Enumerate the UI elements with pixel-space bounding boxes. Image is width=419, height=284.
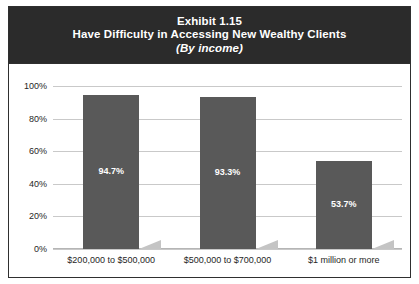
bar-shadow [139,240,161,249]
y-axis-tick-label: 0% [34,244,47,254]
plot-frame: 0%20%40%60%80%100%94.7%93.3%53.7% $200,0… [9,63,410,277]
chart-figure: Exhibit 1.15 Have Difficulty in Accessin… [0,0,419,284]
chart-subtitle: (By income) [176,42,243,56]
chart-card: Exhibit 1.15 Have Difficulty in Accessin… [8,6,411,278]
gridline: 100% [53,86,402,87]
exhibit-number: Exhibit 1.15 [177,15,242,29]
bar[interactable]: 53.7% [316,161,372,249]
y-axis-tick-label: 100% [24,81,47,91]
plot-area: 0%20%40%60%80%100%94.7%93.3%53.7% [53,86,402,249]
y-axis-tick-label: 20% [29,211,47,221]
x-axis-category-label: $1 million or more [286,255,402,265]
bar-shadow [256,240,278,249]
chart-headline: Have Difficulty in Accessing New Wealthy… [73,28,347,42]
bar-shadow [372,240,394,249]
chart-title-banner: Exhibit 1.15 Have Difficulty in Accessin… [9,7,410,63]
bar[interactable]: 94.7% [83,95,139,249]
bar-value-label: 94.7% [83,166,139,176]
x-axis-category-labels: $200,000 to $500,000$500,000 to $700,000… [53,255,402,265]
y-axis-tick-label: 60% [29,146,47,156]
x-axis-category-label: $200,000 to $500,000 [53,255,169,265]
bar-value-label: 93.3% [200,167,256,177]
bar[interactable]: 93.3% [200,97,256,249]
y-axis-tick-label: 40% [29,179,47,189]
y-axis-tick-label: 80% [29,114,47,124]
bar-value-label: 53.7% [316,199,372,209]
gridline: 0% [53,249,402,250]
x-axis-category-label: $500,000 to $700,000 [169,255,285,265]
